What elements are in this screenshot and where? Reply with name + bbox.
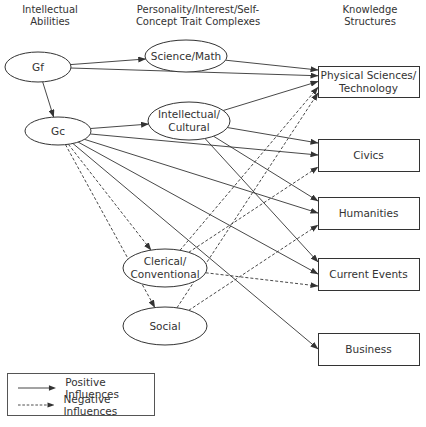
dashed-arrow-icon bbox=[18, 400, 54, 410]
node-science-math: Science/Math bbox=[145, 40, 227, 72]
node-intellectual-cultural: Intellectual/ Cultural bbox=[148, 102, 230, 140]
solid-arrow-icon bbox=[18, 383, 56, 393]
edge-intellectual-cultural-to-physical-sciences bbox=[223, 82, 318, 111]
edge-gf-to-science-math bbox=[71, 59, 146, 65]
node-gf: Gf bbox=[5, 52, 71, 82]
box-physical-sciences-line1: Physical Sciences/ bbox=[321, 69, 417, 82]
edge-gc-to-humanities bbox=[84, 139, 318, 213]
box-humanities-label: Humanities bbox=[339, 207, 399, 220]
edge-clerical-conventional-to-civics bbox=[189, 167, 318, 252]
edge-gf-to-gc bbox=[43, 82, 54, 117]
box-physical-sciences: Physical Sciences/ Technology bbox=[318, 66, 419, 97]
edge-gc-to-intellectual-cultural bbox=[90, 124, 148, 128]
box-civics: Civics bbox=[318, 139, 419, 171]
node-gc-label: Gc bbox=[51, 125, 65, 138]
node-intellectual-cultural-line2: Cultural bbox=[168, 121, 209, 134]
box-humanities: Humanities bbox=[318, 197, 419, 229]
node-intellectual-cultural-line1: Intellectual/ bbox=[158, 108, 220, 121]
node-science-math-label: Science/Math bbox=[151, 50, 222, 63]
node-clerical-line2: Conventional bbox=[130, 268, 199, 281]
legend: Positive Influences Negative Influences bbox=[7, 373, 155, 416]
edge-gc-to-clerical-conventional bbox=[68, 144, 151, 250]
box-current-events-label: Current Events bbox=[329, 268, 407, 281]
node-social: Social bbox=[123, 307, 207, 345]
box-business: Business bbox=[318, 333, 419, 365]
edge-science-math-to-physical-sciences bbox=[226, 60, 318, 70]
node-social-label: Social bbox=[149, 320, 180, 333]
legend-negative: Negative Influences bbox=[18, 398, 154, 412]
box-civics-label: Civics bbox=[353, 149, 384, 162]
edge-social-to-humanities bbox=[189, 225, 318, 310]
box-business-label: Business bbox=[345, 343, 391, 356]
edge-intellectual-cultural-to-humanities bbox=[214, 136, 318, 201]
legend-negative-label: Negative Influences bbox=[63, 393, 154, 417]
node-gc: Gc bbox=[25, 117, 91, 145]
edge-clerical-conventional-to-current-events bbox=[206, 273, 318, 286]
edge-intellectual-cultural-to-civics bbox=[227, 128, 318, 143]
node-gf-label: Gf bbox=[32, 61, 44, 74]
node-clerical-line1: Clerical/ bbox=[144, 255, 187, 268]
box-physical-sciences-line2: Technology bbox=[339, 82, 398, 95]
box-current-events: Current Events bbox=[318, 258, 419, 290]
node-clerical-conventional: Clerical/ Conventional bbox=[123, 249, 207, 287]
